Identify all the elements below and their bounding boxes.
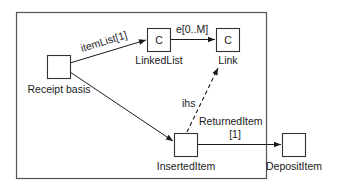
class-glyph-icon: C <box>155 34 163 46</box>
class-glyph-icon: C <box>224 34 232 46</box>
edge-multiplicity-returned-item: [1] <box>229 128 241 140</box>
node-deposit-item[interactable]: DepositItem <box>266 134 322 173</box>
node-box <box>283 134 306 157</box>
node-receipt-basis[interactable]: Receipt basis <box>27 56 90 96</box>
node-label: InsertedItem <box>157 160 216 172</box>
edge-label-returned-item: ReturnedItem <box>199 115 263 127</box>
node-link[interactable]: C Link <box>217 29 240 67</box>
node-box <box>175 134 198 157</box>
node-label: DepositItem <box>266 160 322 172</box>
node-label: LinkedList <box>135 54 182 66</box>
node-box <box>48 56 71 79</box>
diagram-canvas: itemList[1] e[0..M] ihs ReturnedItem [1]… <box>0 0 337 187</box>
node-label: Receipt basis <box>27 83 90 95</box>
node-label: Link <box>218 54 238 66</box>
node-inserted-item[interactable]: InsertedItem <box>157 134 216 173</box>
edge-label-e: e[0..M] <box>176 23 208 35</box>
edge-label-item-list: itemList[1] <box>79 28 128 53</box>
edge-label-ihs: ihs <box>182 97 195 109</box>
